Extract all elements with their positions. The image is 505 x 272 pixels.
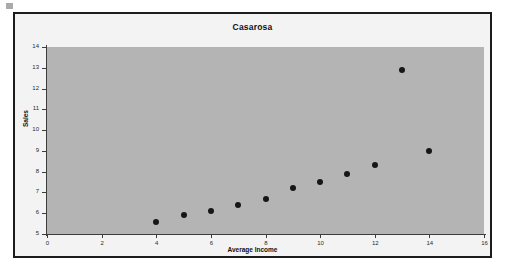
scatter-point bbox=[399, 67, 405, 73]
scatter-point bbox=[426, 148, 432, 154]
y-axis-tick: 10 bbox=[42, 130, 47, 131]
y-axis-line bbox=[46, 45, 47, 236]
scatter-point bbox=[263, 196, 269, 202]
scatter-point bbox=[181, 212, 187, 218]
y-axis-tick-label: 6 bbox=[36, 209, 39, 215]
chart-frame: Casarosa 567891011121314 0246810121416 S… bbox=[13, 12, 492, 258]
y-axis-tick: 13 bbox=[42, 68, 47, 69]
y-axis-tick-label: 8 bbox=[36, 168, 39, 174]
scatter-point bbox=[153, 219, 159, 225]
y-axis-tick-label: 9 bbox=[36, 147, 39, 153]
x-axis-tick: 2 bbox=[102, 234, 103, 238]
plot-area bbox=[47, 47, 484, 234]
y-axis-tick: 7 bbox=[42, 192, 47, 193]
scatter-point bbox=[290, 185, 296, 191]
y-axis-tick-label: 11 bbox=[33, 105, 39, 111]
y-axis-tick-label: 10 bbox=[32, 126, 39, 132]
x-axis-tick: 14 bbox=[429, 234, 430, 238]
y-axis-tick: 6 bbox=[42, 213, 47, 214]
chart-title: Casarosa bbox=[15, 22, 490, 32]
x-axis-tick: 4 bbox=[156, 234, 157, 238]
x-axis-label: Average Income bbox=[15, 246, 490, 253]
x-axis-tick: 10 bbox=[320, 234, 321, 238]
scatter-point bbox=[344, 171, 350, 177]
x-axis-tick: 0 bbox=[47, 234, 48, 238]
scan-artifact-speck bbox=[6, 3, 13, 9]
scatter-point bbox=[235, 202, 241, 208]
y-axis-label: Sales bbox=[22, 110, 29, 127]
y-axis-tick-label: 14 bbox=[32, 43, 39, 49]
x-axis-tick: 12 bbox=[375, 234, 376, 238]
x-axis-tick: 16 bbox=[484, 234, 485, 238]
x-axis-tick: 6 bbox=[211, 234, 212, 238]
y-axis-tick: 9 bbox=[42, 151, 47, 152]
y-axis-tick: 8 bbox=[42, 172, 47, 173]
y-axis-tick: 12 bbox=[42, 89, 47, 90]
y-axis-tick-label: 7 bbox=[36, 188, 39, 194]
scatter-point bbox=[317, 179, 323, 185]
scatter-point bbox=[372, 162, 378, 168]
x-axis-tick: 8 bbox=[266, 234, 267, 238]
y-axis-tick-label: 12 bbox=[32, 85, 39, 91]
y-axis-tick-label: 13 bbox=[32, 64, 39, 70]
y-axis-tick: 14 bbox=[42, 47, 47, 48]
scatter-point bbox=[208, 208, 214, 214]
y-axis-tick: 11 bbox=[42, 109, 47, 110]
y-axis-tick-label: 5 bbox=[36, 230, 39, 236]
